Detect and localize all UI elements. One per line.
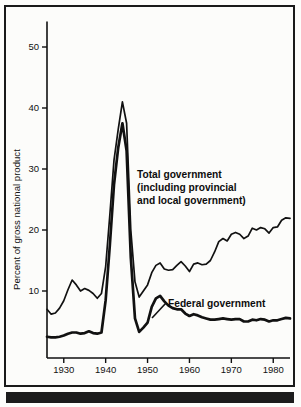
figure-container: 1020304050 193019401950196019701980 Perc… bbox=[0, 0, 301, 407]
x-axis-tick-labels: 193019401950196019701980 bbox=[53, 364, 284, 375]
x-tick-label: 1950 bbox=[137, 364, 158, 375]
line-chart: 1020304050 193019401950196019701980 Perc… bbox=[0, 0, 301, 407]
y-tick-label: 20 bbox=[28, 224, 39, 235]
y-tick-label: 30 bbox=[28, 163, 39, 174]
x-tick-label: 1970 bbox=[221, 364, 242, 375]
annotation-leader-line bbox=[152, 303, 166, 318]
annotation-total-government-line2: (including provincial bbox=[137, 182, 237, 193]
y-axis-tick-labels: 1020304050 bbox=[28, 41, 39, 296]
annotation-total-government-line3: and local government) bbox=[137, 195, 246, 206]
x-tick-label: 1980 bbox=[263, 364, 284, 375]
series-line-total-government bbox=[47, 102, 290, 314]
x-tick-label: 1940 bbox=[95, 364, 116, 375]
y-tick-label: 40 bbox=[28, 102, 39, 113]
x-tick-label: 1960 bbox=[179, 364, 200, 375]
x-tick-label: 1930 bbox=[53, 364, 74, 375]
annotation-total-government-line1: Total government bbox=[137, 169, 222, 180]
y-tick-label: 50 bbox=[28, 41, 39, 52]
annotation-federal-government: Federal government bbox=[168, 298, 266, 309]
y-tick-label: 10 bbox=[28, 285, 39, 296]
y-axis-title: Percent of gross national product bbox=[11, 149, 22, 290]
